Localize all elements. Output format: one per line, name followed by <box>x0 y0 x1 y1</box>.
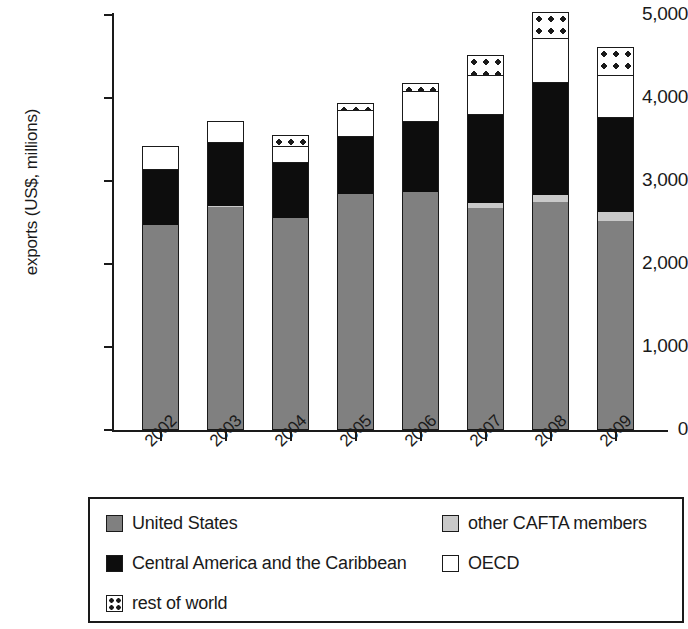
bar-segment-united-states <box>337 194 374 430</box>
bar-2004 <box>272 15 309 430</box>
bar-segment-central-america-and-the-caribbean <box>337 137 374 194</box>
legend-item-label: OECD <box>468 553 519 574</box>
bar-segment-other-cafta-members <box>467 203 504 208</box>
legend-item-label: other CAFTA members <box>468 513 647 534</box>
bar-chart: exports (US$, millions) 5,0004,0003,0002… <box>0 0 688 500</box>
bar-segment-rest-of-world <box>597 47 634 75</box>
bar-segment-central-america-and-the-caribbean <box>467 115 504 203</box>
bar-segment-united-states <box>272 218 309 430</box>
legend-item-label: rest of world <box>132 593 227 614</box>
bar-segment-other-cafta-members <box>532 195 569 202</box>
bar-segment-united-states <box>142 225 179 430</box>
legend-swatch-ca-icon <box>106 555 123 572</box>
bar-2006 <box>402 15 439 430</box>
legend: United Statesother CAFTA membersCentral … <box>88 497 684 623</box>
bar-2005 <box>337 15 374 430</box>
bar-segment-rest-of-world <box>337 103 374 110</box>
legend-item-cafta[interactable]: other CAFTA members <box>442 513 647 534</box>
legend-item-row[interactable]: rest of world <box>106 593 227 614</box>
legend-item-ca[interactable]: Central America and the Caribbean <box>106 553 407 574</box>
bar-segment-rest-of-world <box>467 55 504 75</box>
bar-segment-united-states <box>207 207 244 430</box>
legend-swatch-cafta-icon <box>442 515 459 532</box>
bar-segment-central-america-and-the-caribbean <box>207 143 244 206</box>
bar-segment-central-america-and-the-caribbean <box>142 170 179 225</box>
bar-2003 <box>207 15 244 430</box>
legend-item-label: Central America and the Caribbean <box>132 553 407 574</box>
bar-segment-central-america-and-the-caribbean <box>597 118 634 212</box>
y-axis-title: exports (US$, millions) <box>22 42 42 342</box>
bar-segment-central-america-and-the-caribbean <box>272 163 309 218</box>
bar-segment-central-america-and-the-caribbean <box>402 122 439 192</box>
bar-segment-oecd <box>272 146 309 163</box>
plot-area <box>112 15 668 430</box>
bar-segment-oecd <box>597 75 634 118</box>
legend-item-label: United States <box>132 513 237 534</box>
bar-segment-rest-of-world <box>402 83 439 91</box>
bar-segment-other-cafta-members <box>597 212 634 221</box>
legend-swatch-oecd-icon <box>442 555 459 572</box>
bar-segment-rest-of-world <box>532 12 569 38</box>
bar-segment-other-cafta-members <box>207 206 244 207</box>
bar-segment-oecd <box>402 91 439 122</box>
bar-2008 <box>532 15 569 430</box>
bar-segment-united-states <box>467 208 504 430</box>
legend-swatch-row-icon <box>106 595 123 612</box>
bar-2002 <box>142 15 179 430</box>
bar-segment-oecd <box>337 110 374 137</box>
bar-segment-oecd <box>207 121 244 143</box>
bar-segment-oecd <box>532 38 569 83</box>
legend-item-us[interactable]: United States <box>106 513 237 534</box>
bar-segment-oecd <box>467 75 504 115</box>
bar-2007 <box>467 15 504 430</box>
bar-segment-united-states <box>532 202 569 430</box>
legend-item-oecd[interactable]: OECD <box>442 553 519 574</box>
bar-segment-rest-of-world <box>272 135 309 146</box>
bar-2009 <box>597 15 634 430</box>
bar-segment-united-states <box>597 221 634 430</box>
bar-segment-oecd <box>142 146 179 170</box>
legend-swatch-us-icon <box>106 515 123 532</box>
bar-segment-united-states <box>402 192 439 430</box>
x-axis-line <box>112 430 668 432</box>
bar-segment-central-america-and-the-caribbean <box>532 83 569 195</box>
